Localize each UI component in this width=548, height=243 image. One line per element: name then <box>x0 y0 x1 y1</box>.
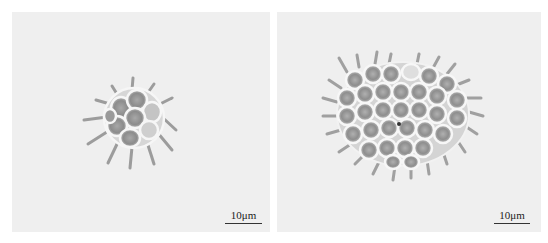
micrograph-panel-right: 10μm <box>277 12 541 232</box>
small-colony-image <box>12 12 270 232</box>
scale-bar-line <box>494 223 530 224</box>
scale-bar-label: 10μm <box>494 209 530 221</box>
scale-bar-left: 10μm <box>225 209 262 224</box>
scale-bar-line <box>225 223 262 224</box>
scale-bar-label: 10μm <box>225 209 262 221</box>
large-colony-image <box>277 12 541 232</box>
micrograph-panel-left: 10μm <box>12 12 270 232</box>
scale-bar-right: 10μm <box>494 209 530 224</box>
